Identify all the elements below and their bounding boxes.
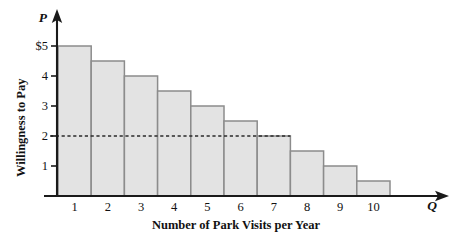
x-tick-label-2: 2 (105, 200, 111, 214)
x-tick-label-1: 1 (71, 200, 77, 214)
x-tick-label-9: 9 (337, 200, 343, 214)
bar-2 (91, 61, 124, 196)
x-tick-label-5: 5 (204, 200, 210, 214)
demand-curve-chart: Willingness to Pay P Q Number of Park Vi… (0, 0, 458, 244)
bar-10 (357, 181, 390, 196)
y-tick-label: $5 (36, 39, 49, 53)
x-tick-label-7: 7 (271, 200, 277, 214)
y-tick-label: 4 (42, 69, 49, 83)
y-axis-symbol: P (39, 10, 48, 25)
bar-5 (191, 106, 224, 196)
x-tick-label-6: 6 (237, 200, 243, 214)
bar-7 (257, 136, 290, 196)
x-tick-label-10: 10 (367, 200, 380, 214)
y-tick-label: 2 (42, 129, 48, 143)
bar-series (58, 46, 390, 196)
bar-8 (290, 151, 323, 196)
bar-4 (158, 91, 191, 196)
y-axis-ticks: $54321 (36, 39, 59, 173)
bar-3 (124, 76, 157, 196)
y-tick-label: 1 (42, 159, 48, 173)
bar-9 (324, 166, 357, 196)
y-axis-title: Willingness to Pay (14, 78, 28, 177)
x-tick-label-3: 3 (138, 200, 144, 214)
bar-1 (58, 46, 91, 196)
bar-6 (224, 121, 257, 196)
x-tick-label-4: 4 (171, 200, 178, 214)
x-axis-ticks: 12345678910 (71, 200, 379, 214)
x-tick-label-8: 8 (304, 200, 310, 214)
y-tick-label: 3 (42, 99, 48, 113)
x-axis-title: Number of Park Visits per Year (152, 218, 321, 232)
